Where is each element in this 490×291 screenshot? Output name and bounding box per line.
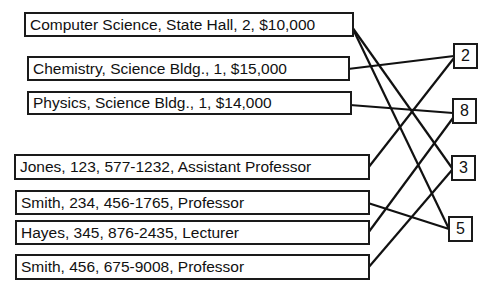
faculty-record-smith-456: Smith, 456, 675-9008, Professor [15,254,370,280]
pointer-label: 2 [461,47,470,65]
faculty-record-smith-234: Smith, 234, 456-1765, Professor [15,190,370,215]
pointer-label: 8 [460,102,469,120]
faculty-record-jones: Jones, 123, 577-1232, Assistant Professo… [14,154,370,180]
record-label: Computer Science, State Hall, 2, $10,000 [30,17,315,33]
link-cs-to-3 [352,27,452,168]
pointer-box-5: 5 [448,216,473,242]
record-label: Smith, 234, 456-1765, Professor [21,195,244,211]
record-label: Chemistry, Science Bldg., 1, $15,000 [33,61,287,77]
record-label: Jones, 123, 577-1232, Assistant Professo… [20,159,311,175]
pointer-label: 3 [459,159,468,177]
pointer-box-8: 8 [452,98,477,124]
record-label: Smith, 456, 675-9008, Professor [21,259,244,275]
record-label: Hayes, 345, 876-2435, Lecturer [21,225,239,241]
link-smith456-to-3 [368,170,452,268]
department-record-cs: Computer Science, State Hall, 2, $10,000 [24,12,354,37]
pointer-box-2: 2 [453,43,478,69]
pointer-label: 5 [456,220,465,238]
department-record-physics: Physics, Science Bldg., 1, $14,000 [27,91,352,115]
department-record-chemistry: Chemistry, Science Bldg., 1, $15,000 [27,56,350,81]
link-chemistry-to-2 [348,56,454,69]
connector-lines [0,0,490,291]
faculty-record-hayes: Hayes, 345, 876-2435, Lecturer [15,220,370,245]
pointer-box-3: 3 [451,155,476,181]
link-physics-to-8 [350,105,453,113]
record-label: Physics, Science Bldg., 1, $14,000 [33,95,272,111]
